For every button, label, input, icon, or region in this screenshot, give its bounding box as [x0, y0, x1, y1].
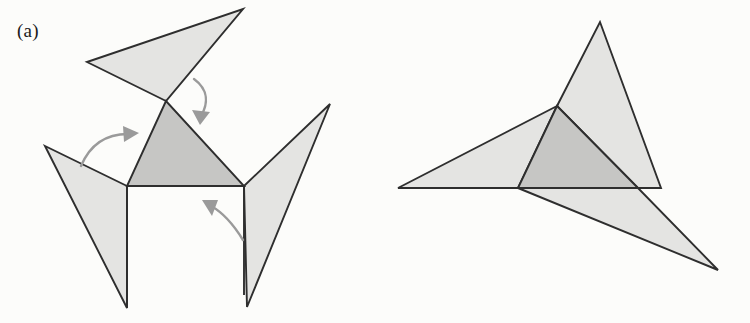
- panel-a: (a): [0, 0, 375, 323]
- figure-root: (a) (b): [0, 0, 750, 323]
- panel-a-label: (a): [17, 20, 39, 42]
- panel-b: (b): [375, 0, 750, 323]
